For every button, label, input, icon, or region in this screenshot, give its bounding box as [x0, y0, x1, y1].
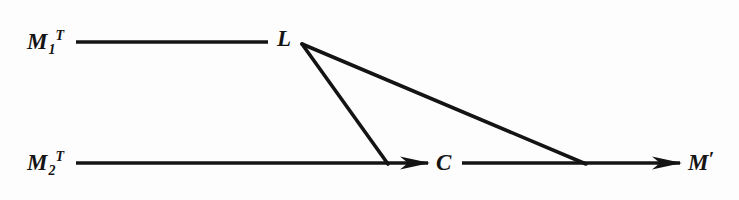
node-label-m2t-superscript: T — [55, 149, 64, 164]
diagram-svg — [0, 0, 739, 200]
node-label-c: C — [436, 151, 451, 174]
node-label-m2t-subscript: 2 — [48, 163, 55, 178]
node-label-m1t: M1T — [27, 30, 63, 53]
node-label-mprime-prime: ′ — [708, 148, 714, 170]
node-label-l: L — [277, 27, 291, 50]
node-label-m1t-superscript: T — [55, 28, 64, 43]
node-label-m2t-base: M — [27, 150, 47, 175]
node-label-m2t: M2T — [27, 151, 63, 174]
node-label-c-base: C — [436, 150, 451, 175]
node-label-mprime: M′ — [688, 151, 714, 174]
node-label-m1t-base: M — [27, 29, 47, 54]
node-label-mprime-base: M — [688, 150, 708, 175]
node-label-l-base: L — [277, 26, 291, 51]
figure-canvas: M1T M2T L C M′ — [0, 0, 739, 200]
node-label-m1t-subscript: 1 — [48, 42, 55, 57]
